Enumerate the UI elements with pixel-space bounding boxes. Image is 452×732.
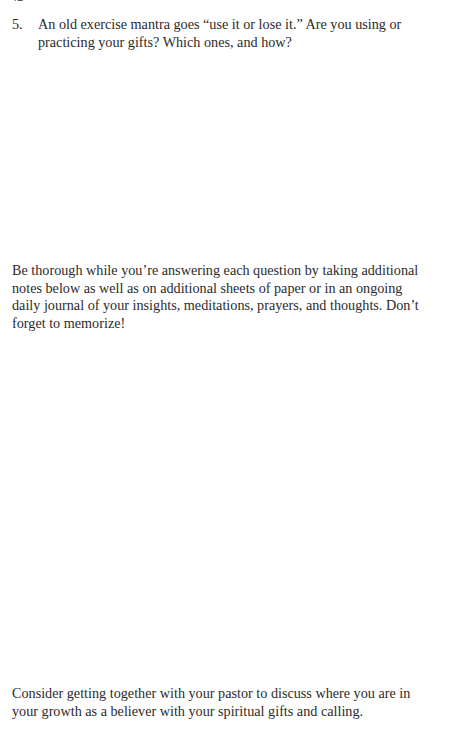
answer-writing-area-2 xyxy=(12,336,428,682)
instructions-paragraph: Be thorough while you’re answering each … xyxy=(12,262,434,332)
document-page: 42 5. An old exercise mantra goes “use i… xyxy=(0,0,452,732)
closing-paragraph: Consider getting together with your past… xyxy=(12,685,430,720)
question-text: An old exercise mantra goes “use it or l… xyxy=(38,16,428,51)
numbered-question-5: 5. An old exercise mantra goes “use it o… xyxy=(12,16,428,51)
page-number: 42 xyxy=(11,0,24,3)
answer-writing-area-1 xyxy=(12,56,428,260)
question-number-marker: 5. xyxy=(12,16,38,34)
